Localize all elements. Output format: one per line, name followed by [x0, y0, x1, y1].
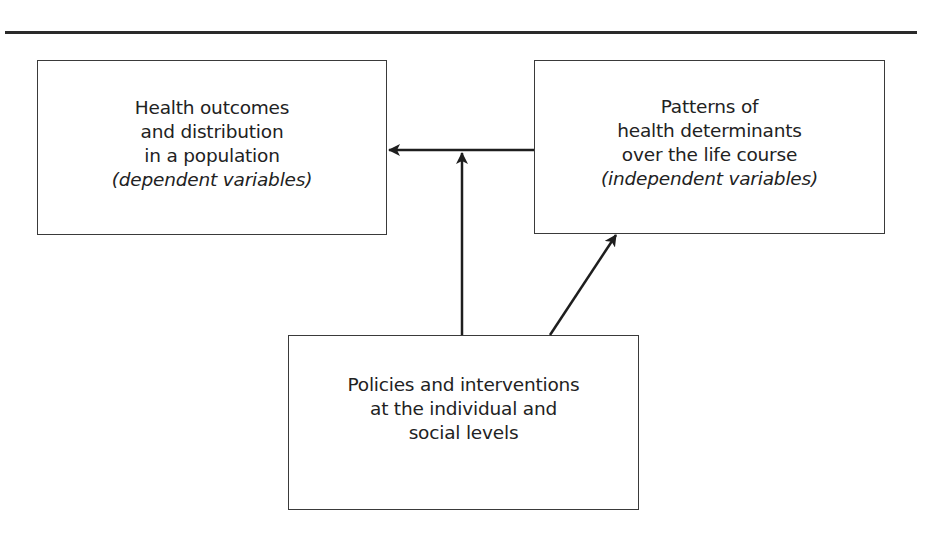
- node-text-line: health determinants: [617, 119, 802, 143]
- node-text-line: over the life course: [622, 143, 797, 167]
- node-variable-type-label: (independent variables): [601, 167, 818, 191]
- node-text-line: at the individual and: [370, 397, 557, 421]
- node-text-line: and distribution: [141, 120, 284, 144]
- node-health-determinants: Patterns of health determinants over the…: [534, 60, 885, 234]
- node-text-line: Policies and interventions: [347, 373, 579, 397]
- node-text-line: in a population: [144, 144, 279, 168]
- top-rule-divider: [5, 31, 917, 34]
- node-text-line: Patterns of: [661, 95, 759, 119]
- node-text-line: Health outcomes: [135, 96, 289, 120]
- node-health-outcomes: Health outcomes and distribution in a po…: [37, 60, 387, 235]
- arrow-policies-to-determinants: [550, 235, 616, 335]
- node-variable-type-label: (dependent variables): [112, 168, 312, 192]
- node-text-line: social levels: [409, 421, 519, 445]
- node-policies-interventions: Policies and interventions at the indivi…: [288, 335, 639, 510]
